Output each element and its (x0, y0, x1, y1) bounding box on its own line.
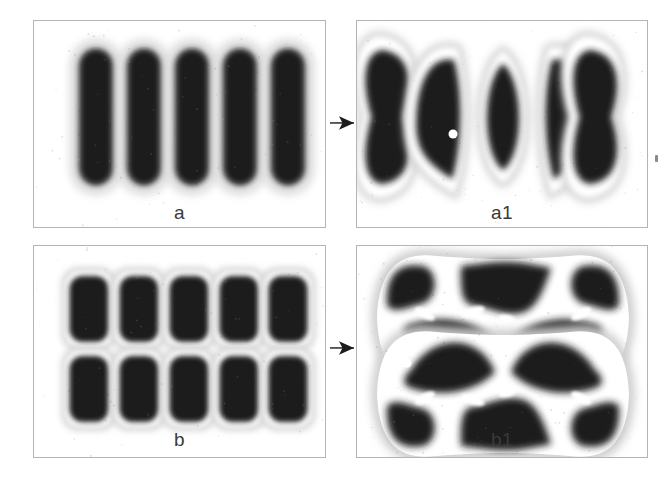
arrow-b-to-b1-icon (330, 339, 354, 357)
panel-b1-image (357, 246, 647, 457)
panel-a1-image (357, 21, 647, 227)
figure-root: a a1 b b1 (0, 0, 670, 479)
margin-speck (655, 155, 658, 162)
panel-a: a (33, 20, 326, 228)
panel-a1: a1 (356, 20, 648, 228)
panel-b1: b1 (356, 245, 648, 458)
panel-b1-label: b1 (357, 429, 647, 451)
panel-a-label: a (34, 202, 325, 224)
arrow-a-to-a1-icon (330, 114, 354, 132)
panel-b-label: b (34, 429, 325, 451)
panel-b-image (34, 246, 325, 457)
panel-b: b (33, 245, 326, 458)
panel-a-image (34, 21, 325, 227)
panel-a1-label: a1 (357, 202, 647, 224)
